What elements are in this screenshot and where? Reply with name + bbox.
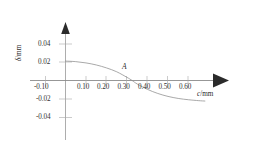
x-tick-label-020: 0.20: [97, 84, 109, 91]
y-axis-title-unit: /mm: [15, 45, 23, 58]
x-axis-title: c/mm: [197, 91, 213, 98]
x-tick-label-040: 0.40: [138, 84, 150, 91]
y-tick-label-neg002: -0.02: [36, 96, 50, 103]
curve-point-label-a: A: [122, 63, 127, 71]
y-tick-label-002: 0.02: [38, 59, 50, 66]
data-curve: [66, 61, 205, 101]
y-axis-title-symbol: δ: [15, 58, 23, 61]
y-axis-arrowhead: [61, 22, 70, 34]
x-axis-title-unit: /mm: [200, 90, 213, 98]
x-tick-label-030: 0.30: [118, 84, 130, 91]
x-tick-label-010: 0.10: [77, 84, 89, 91]
x-axis-arrowhead: [213, 74, 229, 88]
x-tick-label-060: 0.60: [179, 84, 191, 91]
y-tick-label-neg004: -0.04: [36, 114, 50, 121]
x-tick-label-neg010: -0.10: [34, 84, 48, 91]
chart-figure: -0.10 0.10 0.20 0.30 0.40 0.50 0.60 0.04…: [0, 0, 256, 148]
y-tick-label-004: 0.04: [38, 41, 50, 48]
chart-plot-area: [0, 0, 256, 148]
x-tick-label-050: 0.50: [159, 84, 171, 91]
y-axis-title: δ/mm: [16, 45, 23, 62]
y-axis-title-wrapper: δ/mm: [14, 38, 26, 68]
